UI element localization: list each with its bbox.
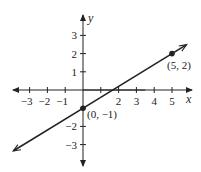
y-tick-label: 3 (72, 29, 78, 41)
y-axis-label: y (87, 11, 94, 25)
x-tick-label: 4 (151, 95, 157, 107)
axes (13, 15, 192, 166)
coordinate-graph: −3−2−12345−3−2123 (0, −1)(5, 2) x y (0, 0, 201, 172)
data-point (80, 105, 86, 111)
x-tick-label: −3 (21, 95, 33, 107)
y-tick-label: 1 (72, 66, 78, 78)
y-tick-label: −2 (65, 120, 77, 132)
point-label: (0, −1) (87, 108, 117, 121)
data-points: (0, −1)(5, 2) (80, 51, 191, 121)
point-label: (5, 2) (167, 59, 191, 72)
y-tick-label: 2 (72, 48, 78, 60)
x-tick-label: −2 (39, 95, 51, 107)
y-tick-label: −3 (65, 139, 77, 151)
x-tick-label: −1 (56, 95, 68, 107)
data-point (169, 51, 175, 57)
x-tick-label: 5 (169, 95, 175, 107)
graph-svg: −3−2−12345−3−2123 (0, −1)(5, 2) x y (0, 0, 201, 172)
x-tick-label: 2 (116, 95, 122, 107)
x-tick-label: 3 (134, 95, 140, 107)
x-axis-label: x (185, 92, 192, 106)
